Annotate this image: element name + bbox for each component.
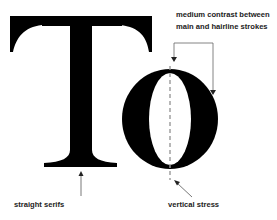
stress-arrow-line xyxy=(177,183,192,197)
contrast-annotation-line2: main and hairline strokes xyxy=(176,22,268,32)
serifs-annotation: straight serifs xyxy=(14,200,64,210)
arrowhead-serif-icon xyxy=(79,171,84,176)
contrast-annotation-line1: medium contrast between xyxy=(176,10,270,20)
type-anatomy-diagram xyxy=(0,0,277,220)
arrowhead-hairline-icon xyxy=(171,57,177,62)
stress-annotation: vertical stress xyxy=(168,200,219,210)
